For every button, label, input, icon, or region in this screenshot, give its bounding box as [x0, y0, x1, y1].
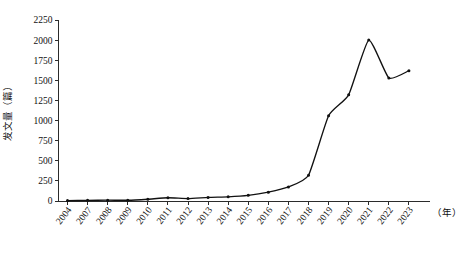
x-tick-label: 2019 [315, 205, 335, 226]
x-axis-unit-text: （年） [432, 207, 462, 218]
data-point-marker [66, 199, 69, 202]
y-tick-label: 0 [48, 196, 53, 206]
y-tick-label: 1500 [34, 76, 53, 86]
y-axis-title-text: 发文量（篇） [2, 81, 13, 141]
x-tick-label: 2018 [295, 205, 315, 226]
data-point-marker [166, 196, 169, 199]
x-tick-label: 2020 [335, 205, 355, 226]
y-tick-label: 2250 [34, 15, 53, 25]
data-point-marker [387, 76, 390, 79]
data-point-marker [267, 191, 270, 194]
x-tick-label: 2004 [54, 205, 74, 226]
data-point-marker [407, 69, 410, 72]
x-tick-label: 2007 [74, 205, 94, 226]
y-axis-group: 0250500750100012501500175020002250 [34, 15, 59, 206]
data-point-marker [126, 199, 129, 202]
y-tick-label: 1250 [34, 96, 53, 106]
series-line-publication-count [68, 40, 409, 201]
x-axis-unit-label: （年） [432, 207, 462, 218]
data-point-marker [207, 196, 210, 199]
x-tick-label: 2010 [134, 205, 154, 226]
data-point-marker [227, 195, 230, 198]
x-tick-label: 2021 [355, 205, 375, 226]
data-point-marker [347, 93, 350, 96]
data-point-marker [86, 199, 89, 202]
y-tick-label: 750 [38, 136, 53, 146]
y-tick-label: 1750 [34, 56, 53, 66]
data-point-marker [146, 198, 149, 201]
data-point-marker [187, 197, 190, 200]
y-axis-ticks: 0250500750100012501500175020002250 [34, 15, 59, 206]
data-point-marker [327, 114, 330, 117]
x-tick-label: 2016 [255, 205, 275, 226]
y-tick-label: 250 [38, 176, 53, 186]
figure-caption [0, 248, 465, 255]
line-chart-canvas: 0250500750100012501500175020002250 20042… [0, 0, 465, 255]
x-tick-label: 2015 [235, 205, 255, 226]
data-point-marker [287, 185, 290, 188]
chart-figure: 0250500750100012501500175020002250 20042… [0, 0, 465, 255]
x-tick-label: 2013 [195, 205, 215, 226]
data-point-marker [367, 39, 370, 42]
x-tick-label: 2023 [395, 205, 415, 226]
y-tick-label: 2000 [34, 36, 53, 46]
x-tick-label: 2009 [114, 205, 134, 226]
y-tick-label: 1000 [34, 116, 53, 126]
x-tick-label: 2022 [375, 205, 395, 226]
data-point-marker [106, 199, 109, 202]
x-tick-label: 2017 [275, 205, 295, 226]
x-axis-group: 2004200720082009201020112012201320142015… [54, 201, 430, 226]
x-tick-label: 2014 [215, 205, 235, 226]
x-tick-label: 2008 [94, 205, 114, 226]
x-axis-ticks: 2004200720082009201020112012201320142015… [54, 201, 415, 226]
y-tick-label: 500 [38, 156, 53, 166]
data-point-marker [307, 174, 310, 177]
y-axis-title: 发文量（篇） [2, 81, 13, 141]
series-markers [66, 39, 410, 202]
data-point-marker [247, 194, 250, 197]
x-tick-label: 2011 [155, 205, 175, 226]
x-tick-label: 2012 [174, 205, 194, 226]
